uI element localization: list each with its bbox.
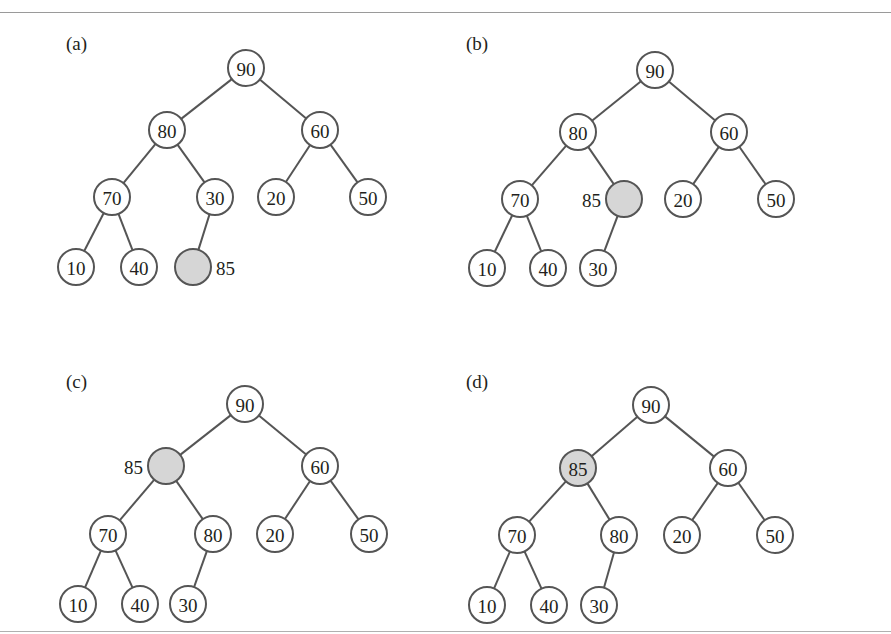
node-value: 60 — [719, 459, 738, 480]
node-value: 70 — [508, 526, 527, 547]
heap-node: 20 — [257, 516, 293, 552]
tree-edge — [592, 81, 641, 120]
tree-edge — [587, 483, 609, 519]
node-value: 10 — [478, 259, 497, 280]
heap-insertion-diagram: (a)90806070302050104085(b)90806070852050… — [0, 0, 891, 634]
heap-node: 60 — [711, 114, 747, 150]
tree-edge — [529, 481, 566, 521]
heap-node: 70 — [502, 181, 538, 217]
node-value: 60 — [720, 123, 739, 144]
tree-edge — [176, 481, 203, 519]
heap-node: 80 — [560, 114, 596, 150]
inserted-value-label: 85 — [216, 258, 235, 279]
heap-node: 70 — [499, 517, 535, 553]
panel-label: (a) — [66, 33, 87, 55]
heap-node: 90 — [637, 52, 673, 88]
tree-edge — [198, 214, 209, 250]
node-circle — [148, 448, 184, 484]
heap-node: 20 — [664, 517, 700, 553]
inserted-node: 85 — [582, 181, 642, 217]
panel-label: (b) — [466, 33, 488, 55]
node-value: 50 — [359, 188, 378, 209]
tree-edge — [177, 145, 204, 183]
heap-node: 50 — [350, 179, 386, 215]
node-value: 70 — [99, 525, 118, 546]
node-value: 20 — [673, 526, 692, 547]
node-value: 10 — [69, 595, 88, 616]
node-value: 80 — [158, 121, 177, 142]
heap-node: 40 — [122, 586, 158, 622]
heap-node: 30 — [197, 179, 233, 215]
node-value: 10 — [67, 258, 86, 279]
tree-edge — [692, 483, 718, 520]
panel-b: (b)90806070852050104030 — [466, 33, 794, 286]
node-value: 30 — [589, 259, 608, 280]
node-value: 90 — [236, 395, 255, 416]
heap-node: 80 — [601, 517, 637, 553]
tree-edge — [494, 552, 510, 589]
heap-node: 60 — [302, 112, 338, 148]
node-value: 30 — [179, 595, 198, 616]
node-value: 50 — [767, 190, 786, 211]
panel-label: (d) — [466, 371, 488, 393]
heap-node: 60 — [302, 448, 338, 484]
heap-node: 10 — [469, 250, 505, 286]
node-value: 40 — [130, 258, 149, 279]
tree-edge — [123, 144, 155, 183]
tree-edge — [85, 551, 101, 588]
panel-c: (c)90856070802050104030 — [60, 371, 387, 622]
node-value: 40 — [131, 595, 150, 616]
heap-node: 50 — [758, 181, 794, 217]
heap-node: 20 — [665, 181, 701, 217]
inserted-node: 85 — [124, 448, 184, 484]
heap-node: 10 — [58, 249, 94, 285]
heap-node: 40 — [531, 587, 567, 623]
heap-node: 20 — [258, 179, 294, 215]
node-value: 50 — [360, 525, 379, 546]
tree-edge — [669, 82, 715, 121]
tree-edge — [118, 214, 132, 250]
tree-edge — [738, 483, 764, 521]
node-circle — [606, 181, 642, 217]
heap-node: 40 — [121, 249, 157, 285]
inserted-value-label: 85 — [124, 457, 143, 478]
heap-node: 30 — [580, 250, 616, 286]
node-value: 30 — [206, 188, 225, 209]
panel-label: (c) — [66, 371, 87, 393]
tree-edge — [331, 481, 359, 520]
node-value: 60 — [311, 457, 330, 478]
tree-edge — [115, 550, 132, 587]
tree-edge — [285, 481, 310, 519]
tree-edge — [120, 480, 155, 521]
tree-edge — [259, 415, 306, 454]
inserted-node: 85 — [175, 249, 235, 285]
tree-edge — [592, 417, 638, 456]
tree-edge — [665, 416, 714, 456]
node-value: 90 — [237, 59, 256, 80]
tree-edge — [532, 146, 566, 186]
node-value: 20 — [674, 190, 693, 211]
node-value: 10 — [478, 596, 497, 617]
node-value: 90 — [642, 396, 661, 417]
node-value: 30 — [590, 596, 609, 617]
tree-edge — [527, 216, 541, 252]
tree-edge — [84, 213, 104, 251]
node-circle — [175, 249, 211, 285]
heap-node: 40 — [530, 250, 566, 286]
node-value: 40 — [539, 259, 558, 280]
heap-node: 30 — [581, 587, 617, 623]
tree-edge — [180, 415, 231, 455]
node-value: 70 — [511, 190, 530, 211]
tree-edge — [286, 145, 310, 182]
heap-node: 70 — [94, 179, 130, 215]
node-value: 20 — [267, 188, 286, 209]
tree-edge — [604, 552, 614, 587]
heap-node: 50 — [351, 516, 387, 552]
node-value: 80 — [610, 526, 629, 547]
tree-edge — [194, 551, 207, 587]
node-value: 60 — [311, 121, 330, 142]
tree-edge — [693, 147, 719, 184]
node-value: 40 — [540, 596, 559, 617]
node-value: 80 — [569, 123, 588, 144]
bottom-rule — [0, 631, 891, 632]
